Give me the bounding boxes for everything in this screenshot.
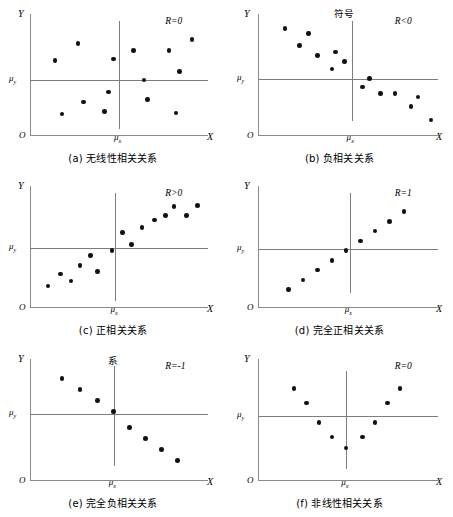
data-point xyxy=(46,284,51,289)
y-axis-line xyxy=(30,359,31,481)
mean-x-line xyxy=(119,21,120,128)
data-point xyxy=(152,218,157,223)
data-point xyxy=(342,59,347,64)
data-point xyxy=(378,91,383,96)
data-point xyxy=(167,48,172,53)
panel-caption: (f) 非线性相关关系 xyxy=(226,495,453,510)
mean-y-label: μy xyxy=(237,409,244,421)
x-axis-line xyxy=(30,480,208,481)
data-point xyxy=(106,90,111,95)
mean-y-label: μy xyxy=(9,241,16,253)
data-point xyxy=(159,447,164,452)
y-axis-line xyxy=(30,186,31,308)
origin-label: O xyxy=(19,130,26,140)
data-point xyxy=(58,272,63,277)
mean-y-label: μy xyxy=(237,242,244,254)
y-axis-label: Y xyxy=(244,353,250,364)
data-point xyxy=(195,203,200,208)
y-axis-label: Y xyxy=(244,8,250,19)
y-axis-label: Y xyxy=(18,180,24,191)
data-point xyxy=(163,213,168,218)
y-axis-line xyxy=(258,186,259,308)
plot-area-e xyxy=(30,359,208,481)
data-point xyxy=(143,436,148,441)
mean-x-line xyxy=(352,21,353,121)
data-point xyxy=(76,41,81,46)
data-point xyxy=(102,109,107,114)
origin-label: O xyxy=(247,302,254,312)
data-point xyxy=(81,100,86,105)
x-axis-label: X xyxy=(207,303,213,314)
data-point xyxy=(78,263,83,268)
y-axis-label: Y xyxy=(244,180,250,191)
stray-text-label: 符号 xyxy=(334,6,354,20)
panel-d: Y X O μy μx R=1 (d) 完全正相关关系 xyxy=(226,172,453,345)
data-point xyxy=(95,398,100,403)
mean-y-line xyxy=(30,248,208,249)
panel-e: Y X O μy μx R=-1 系 (e) 完全负相关关系 xyxy=(0,345,226,517)
data-point xyxy=(367,76,372,81)
data-point xyxy=(174,111,179,116)
data-point xyxy=(409,104,414,109)
mean-y-label: μy xyxy=(9,73,16,85)
mean-x-label: μx xyxy=(109,477,116,489)
data-point xyxy=(95,269,100,274)
panel-caption: (b) 负相关关系 xyxy=(226,150,453,165)
data-point xyxy=(190,37,195,42)
data-point xyxy=(315,53,320,58)
data-point xyxy=(140,225,145,230)
panel-caption: (c) 正相关关系 xyxy=(0,322,226,337)
mean-x-label: μx xyxy=(345,304,352,316)
data-point xyxy=(330,258,335,263)
data-point xyxy=(304,401,309,406)
plot-area-b xyxy=(258,14,438,136)
data-point xyxy=(129,242,134,247)
data-point xyxy=(175,458,180,463)
data-point xyxy=(88,253,93,258)
data-point xyxy=(330,435,335,440)
mean-x-line xyxy=(346,371,347,469)
plot-area-a xyxy=(30,14,208,136)
data-point xyxy=(306,31,311,36)
mean-x-line xyxy=(115,193,116,300)
mean-y-line xyxy=(30,414,208,415)
mean-x-label: μx xyxy=(114,132,121,144)
data-point xyxy=(78,387,83,392)
data-point xyxy=(398,386,403,391)
data-point xyxy=(360,85,365,90)
panel-a: Y X O μy μx R=0 (a) 无线性相关关系 xyxy=(0,0,226,172)
origin-label: O xyxy=(247,130,254,140)
mean-x-line xyxy=(350,193,351,293)
mean-x-label: μx xyxy=(110,304,117,316)
data-point xyxy=(330,67,335,72)
data-point xyxy=(373,229,378,234)
data-point xyxy=(387,219,392,224)
data-point xyxy=(315,268,320,273)
data-point xyxy=(385,401,390,406)
data-point xyxy=(333,50,338,55)
mean-x-label: μx xyxy=(347,132,354,144)
data-point xyxy=(69,279,74,284)
correlation-annotation: R>0 xyxy=(165,188,182,198)
correlation-annotation: R=1 xyxy=(395,188,412,198)
origin-label: O xyxy=(19,302,26,312)
data-point xyxy=(297,43,302,48)
correlation-annotation: R=0 xyxy=(165,16,182,26)
data-point xyxy=(177,69,182,74)
y-axis-label: Y xyxy=(18,353,24,364)
data-point xyxy=(172,204,177,209)
mean-x-label: μx xyxy=(341,477,348,489)
correlation-annotation: R<0 xyxy=(395,16,412,26)
panel-caption: (e) 完全负相关关系 xyxy=(0,495,226,510)
data-point xyxy=(60,112,65,117)
data-point xyxy=(416,95,421,100)
panel-caption: (d) 完全正相关关系 xyxy=(226,322,453,337)
data-point xyxy=(393,91,398,96)
panel-b: Y X O μy μx R<0 符号 (b) 负相关关系 xyxy=(226,0,453,172)
data-point xyxy=(344,248,349,253)
data-point xyxy=(358,239,363,244)
plot-area-c xyxy=(30,186,208,308)
x-axis-label: X xyxy=(436,131,442,142)
data-point xyxy=(53,58,58,63)
plot-area-f xyxy=(258,359,438,481)
